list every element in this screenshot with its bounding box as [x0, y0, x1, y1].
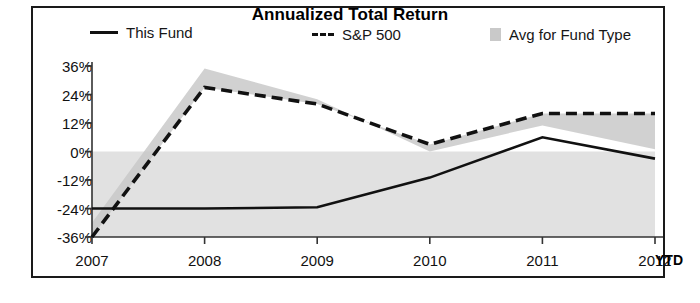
- x-axis-tick-label: 2010: [413, 252, 446, 269]
- zero-band: [92, 152, 655, 238]
- negative-region-shading: [92, 152, 655, 238]
- x-axis-tick-label: 2007: [75, 252, 108, 269]
- x-axis-tick-label: 2011: [526, 252, 558, 269]
- x-axis-ytd-label: YTD: [655, 252, 683, 268]
- x-axis-tick-label: 2008: [188, 252, 221, 269]
- annualized-total-return-chart: Annualized Total Return This Fund S&P 50…: [0, 0, 700, 303]
- x-axis-tick-label: 2009: [301, 252, 334, 269]
